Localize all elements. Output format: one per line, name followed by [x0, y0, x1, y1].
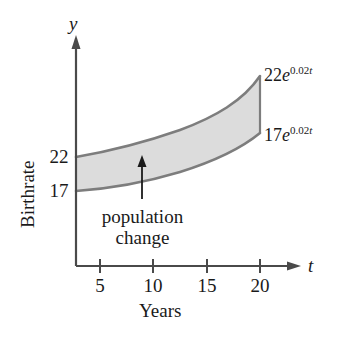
- y-axis-title: Birthrate: [18, 160, 37, 228]
- x-tick-label-20: 20: [246, 276, 274, 295]
- annotation-text: population change: [85, 206, 200, 249]
- x-axis-title: Years: [139, 301, 181, 320]
- curve-label-upper-coefficient: 22: [264, 65, 282, 85]
- birthrate-population-change-chart: y t Birthrate 22 17 5 10 15 20 Years 22e…: [0, 0, 338, 340]
- annotation-text-line-1: population: [85, 206, 200, 227]
- curve-label-upper-exponent-var: t: [309, 64, 312, 76]
- y-axis-variable-label: y: [69, 14, 77, 33]
- curve-label-lower-exponent: 0.02t: [290, 124, 312, 136]
- y-tick-label-17: 17: [47, 181, 71, 200]
- curve-label-upper-exponent-value: 0.02: [290, 64, 309, 76]
- x-tick-label-15: 15: [193, 276, 221, 295]
- curve-label-lower-exponent-value: 0.02: [290, 124, 309, 136]
- curve-label-upper: 22e0.02t: [264, 66, 312, 84]
- chart-canvas: [0, 0, 338, 340]
- curve-label-upper-base: e: [282, 65, 290, 85]
- x-tick-label-10: 10: [139, 276, 167, 295]
- curve-label-lower-coefficient: 17: [264, 125, 282, 145]
- curve-label-upper-exponent: 0.02t: [290, 64, 312, 76]
- x-axis-arrowhead-icon: [287, 262, 301, 271]
- curve-label-lower: 17e0.02t: [264, 126, 312, 144]
- y-tick-label-22: 22: [47, 147, 71, 166]
- annotation-text-line-2: change: [85, 227, 200, 248]
- x-axis-variable-label: t: [308, 256, 313, 275]
- y-axis-arrowhead-icon: [72, 35, 81, 49]
- x-tick-label-5: 5: [86, 276, 114, 295]
- curve-label-lower-exponent-var: t: [309, 124, 312, 136]
- curve-label-lower-base: e: [282, 125, 290, 145]
